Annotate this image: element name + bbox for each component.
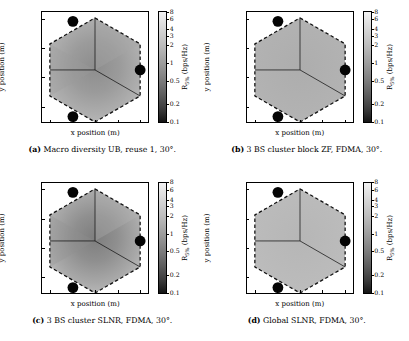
subfigure-a: y position (m) — [0, 0, 205, 171]
x-axis-label-d: x position (m) — [246, 301, 354, 308]
colorbar-tick-label: 8 — [170, 9, 174, 15]
colorbar-tick-label: 0.1 — [170, 119, 180, 125]
caption-text: Global SLNR, FDMA, 30°. — [263, 316, 366, 325]
colorbar-b: 8 6 4 3 2 1 0.5 0.2 0.1 — [363, 11, 372, 123]
heatmap-c — [42, 183, 148, 293]
caption-d: (d) Global SLNR, FDMA, 30°. — [248, 317, 366, 326]
colorbar-tick-label: 8 — [374, 179, 378, 185]
colorbar-tick-label: 1 — [170, 60, 174, 66]
panel-area-d: y position (m) — [205, 171, 409, 316]
base-station-marker — [68, 186, 79, 197]
colorbar-tick-label: 0.1 — [374, 289, 384, 295]
y-axis-label-a: y position (m) — [0, 43, 6, 92]
colorbar-c: 8 6 4 3 2 1 0.5 0.2 0.1 — [158, 182, 167, 294]
colorbar-tick-label: 3 — [374, 33, 378, 39]
subfigure-c: y position (m) — [0, 171, 205, 341]
colorbar-tick-label: 1 — [170, 230, 174, 236]
x-axis-label-a: x position (m) — [41, 130, 149, 137]
figure-grid: y position (m) — [0, 0, 409, 341]
axes-frame-a: 1400 1200 1000 800 400 600 800 — [41, 11, 149, 123]
colorbar-tick-label: 2 — [170, 42, 174, 48]
colorbar-tick-label: 0.2 — [374, 272, 384, 278]
base-station-marker — [340, 65, 351, 76]
colorbar-d: 8 6 4 3 2 1 0.5 0.2 0.1 — [363, 182, 372, 294]
colorbar-gradient — [363, 182, 372, 294]
colorbar-tick-label: 6 — [374, 187, 378, 193]
caption-text: 3 BS cluster block ZF, FDMA, 30°. — [247, 145, 383, 154]
colorbar-tick-label: 3 — [170, 203, 174, 209]
x-axis-label-b: x position (m) — [246, 130, 354, 137]
colorbar-gradient — [158, 182, 167, 294]
base-station-marker — [68, 16, 79, 27]
caption-tag: (a) — [29, 145, 41, 154]
axes-frame-c: 1400 1200 1000 800 400 600 800 — [41, 182, 149, 294]
subfigure-d: y position (m) — [205, 171, 409, 341]
colorbar-tick-label: 1 — [374, 60, 378, 66]
base-station-marker — [135, 65, 146, 76]
y-axis-label-c: y position (m) — [0, 213, 6, 262]
caption-b: (b) 3 BS cluster block ZF, FDMA, 30°. — [231, 146, 382, 155]
heatmap-a — [42, 12, 148, 122]
colorbar-tick-label: 1 — [374, 230, 378, 236]
colorbar-tick-label: 6 — [170, 16, 174, 22]
colorbar-tick-label: 0.2 — [170, 101, 180, 107]
colorbar-axis-label-a: R5% (bps/Hz) — [182, 44, 191, 90]
caption-tag: (c) — [32, 316, 44, 325]
caption-text: 3 BS cluster SLNR, FDMA, 30°. — [47, 316, 173, 325]
colorbar-tick-label: 8 — [170, 179, 174, 185]
y-axis-label-d: y position (m) — [203, 213, 210, 262]
caption-tag: (d) — [248, 316, 261, 325]
colorbar-gradient — [158, 11, 167, 123]
caption-tag: (b) — [231, 145, 244, 154]
colorbar-tick-label: 0.2 — [170, 272, 180, 278]
colorbar-tick-label: 6 — [170, 187, 174, 193]
base-station-marker — [272, 186, 283, 197]
colorbar-tick-label: 0.1 — [374, 119, 384, 125]
heatmap-b — [247, 12, 353, 122]
caption-text: Macro diversity UB, reuse 1, 30°. — [43, 145, 176, 154]
subfigure-b: y position (m) — [205, 0, 409, 171]
caption-c: (c) 3 BS cluster SLNR, FDMA, 30°. — [32, 317, 172, 326]
base-station-marker — [340, 235, 351, 246]
colorbar-tick-label: 3 — [170, 33, 174, 39]
colorbar-gradient — [363, 11, 372, 123]
colorbar-tick-label: 0.1 — [170, 289, 180, 295]
caption-a: (a) Macro diversity UB, reuse 1, 30°. — [29, 146, 177, 155]
heatmap-d — [247, 183, 353, 293]
y-axis-label-b: y position (m) — [203, 43, 210, 92]
axes-frame-d: 1400 1200 1000 800 400 600 800 — [246, 182, 354, 294]
colorbar-axis-label-d: R5% (bps/Hz) — [386, 215, 395, 261]
colorbar-axis-label-c: R5% (bps/Hz) — [182, 215, 191, 261]
colorbar-tick-label: 3 — [374, 203, 378, 209]
colorbar-tick-label: 2 — [374, 213, 378, 219]
colorbar-tick-label: 0.5 — [374, 78, 384, 84]
colorbar-tick-label: 2 — [374, 42, 378, 48]
colorbar-tick-label: 0.2 — [374, 101, 384, 107]
colorbar-tick-label: 0.5 — [374, 248, 384, 254]
colorbar-tick-label: 0.5 — [170, 78, 180, 84]
panel-area-b: y position (m) — [205, 0, 409, 145]
colorbar-tick-label: 2 — [170, 213, 174, 219]
colorbar-tick-label: 0.5 — [170, 248, 180, 254]
x-axis-label-c: x position (m) — [41, 301, 149, 308]
colorbar-tick-label: 8 — [374, 9, 378, 15]
panel-area-a: y position (m) — [0, 0, 204, 145]
colorbar-a: 8 6 4 3 2 1 0.5 0.2 0.1 — [158, 11, 167, 123]
colorbar-axis-label-b: R5% (bps/Hz) — [386, 44, 395, 90]
base-station-marker — [272, 16, 283, 27]
colorbar-tick-label: 6 — [374, 16, 378, 22]
panel-area-c: y position (m) — [0, 171, 204, 316]
base-station-marker — [135, 235, 146, 246]
axes-frame-b: 1400 1200 1000 800 400 600 800 — [246, 11, 354, 123]
